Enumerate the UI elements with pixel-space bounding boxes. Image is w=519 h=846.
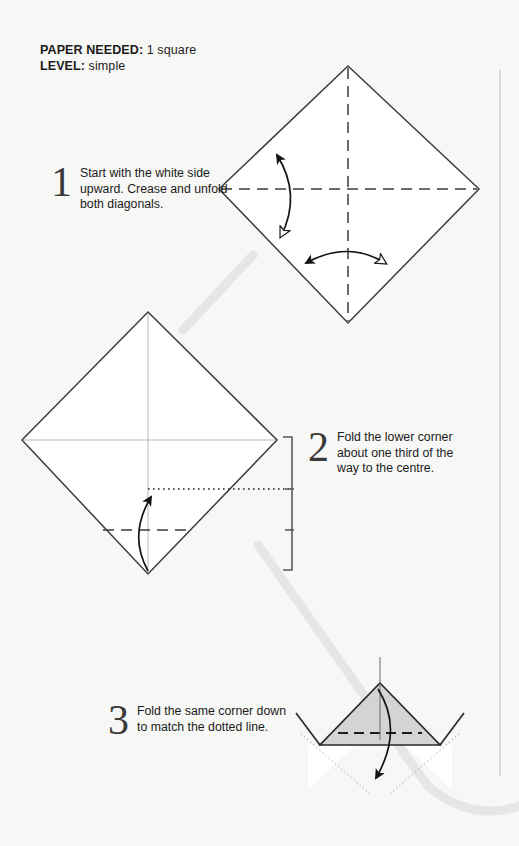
paper-needed-value: 1 square	[143, 43, 196, 57]
diagram-3-group	[296, 657, 464, 794]
connector-ribbon-2-to-3	[258, 545, 519, 811]
step-3-number: 3	[108, 699, 129, 741]
level-value: simple	[85, 59, 125, 73]
diagram-2-group	[22, 312, 294, 574]
diagram-3-wing-left-fill	[308, 745, 356, 790]
connector-ribbon-1-to-2	[183, 255, 253, 330]
diagram-1-square	[219, 66, 479, 323]
diagram-1-group	[219, 66, 479, 323]
paper-needed-label: PAPER NEEDED:	[40, 43, 143, 57]
level-line: LEVEL: simple	[40, 59, 300, 75]
step-3-text: Fold the same corner down to match the d…	[137, 704, 287, 735]
step-2-text: Fold the lower corner about one third of…	[337, 430, 469, 477]
diagram-2-square	[22, 312, 277, 574]
diagram-2-measure-bracket	[283, 437, 292, 570]
level-label: LEVEL:	[40, 59, 85, 73]
step-1-text: Start with the white side upward. Crease…	[80, 166, 230, 213]
paper-needed-line: PAPER NEEDED: 1 square	[40, 43, 300, 59]
materials-header: PAPER NEEDED: 1 square LEVEL: simple	[40, 43, 300, 74]
step-1-number: 1	[51, 161, 72, 203]
origami-instruction-page: PAPER NEEDED: 1 square LEVEL: simple 1 S…	[0, 0, 519, 846]
step-2-number: 2	[308, 426, 329, 468]
